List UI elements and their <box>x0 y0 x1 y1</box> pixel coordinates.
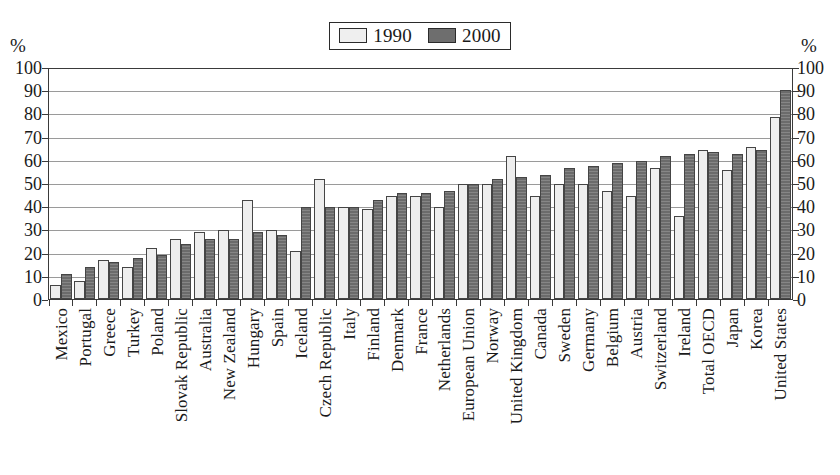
bar-1990 <box>98 260 109 299</box>
y-tick-mark-left <box>42 68 48 69</box>
legend-item-2000: 2000 <box>428 26 501 45</box>
bar-group <box>456 69 480 299</box>
y-tick-label-left: 50 <box>2 175 42 193</box>
bar-2000 <box>397 193 408 299</box>
bar-group <box>145 69 169 299</box>
bar-2000 <box>492 179 503 299</box>
bar-group <box>241 69 265 299</box>
y-tick-label-left: 20 <box>2 245 42 263</box>
x-label-cell: Turkey <box>121 306 145 474</box>
x-tick-label: Denmark <box>388 308 405 372</box>
bar-1990 <box>242 200 253 299</box>
bar-2000 <box>588 166 599 299</box>
bar-1990 <box>722 170 733 299</box>
y-tick-mark-left <box>42 184 48 185</box>
y-tick-mark-right <box>793 91 799 92</box>
x-tick-label: Finland <box>364 308 381 361</box>
x-label-cell: Total OECD <box>696 306 720 474</box>
x-label-cell: United Kingdom <box>504 306 528 474</box>
bar-2000 <box>732 154 743 299</box>
y-tick-mark-left <box>42 300 48 301</box>
bar-2000 <box>109 262 120 299</box>
bar-group <box>361 69 385 299</box>
bar-2000 <box>349 207 360 299</box>
y-tick-mark-right <box>793 277 799 278</box>
bar-group <box>433 69 457 299</box>
y-tick-label-left: 70 <box>2 129 42 147</box>
y-tick-label-right: 80 <box>797 105 840 123</box>
bar-2000 <box>133 258 144 299</box>
bar-group <box>576 69 600 299</box>
y-tick-label-left: 40 <box>2 198 42 216</box>
y-tick-label-right: 20 <box>797 245 840 263</box>
y-tick-mark-right <box>793 161 799 162</box>
bar-2000 <box>540 175 551 299</box>
x-tick-label: European Union <box>460 308 477 421</box>
bar-1990 <box>458 184 469 299</box>
y-tick-label-right: 0 <box>797 291 840 309</box>
x-label-cell: Netherlands <box>433 306 457 474</box>
x-tick-label: Greece <box>100 308 117 357</box>
x-tick-label: Sweden <box>556 308 573 362</box>
x-label-cell: Ireland <box>672 306 696 474</box>
bar-1990 <box>338 207 349 299</box>
bar-group <box>768 69 792 299</box>
bar-group <box>289 69 313 299</box>
y-tick-label-right: 30 <box>797 221 840 239</box>
x-label-cell: Finland <box>361 306 385 474</box>
y-tick-label-left: 80 <box>2 105 42 123</box>
y-tick-label-right: 40 <box>797 198 840 216</box>
x-label-cell: Hungary <box>241 306 265 474</box>
bar-2000 <box>205 239 216 299</box>
bar-group <box>169 69 193 299</box>
bar-group <box>121 69 145 299</box>
bar-1990 <box>578 184 589 299</box>
y-tick-label-right: 90 <box>797 82 840 100</box>
x-label-cell: Spain <box>265 306 289 474</box>
y-tick-mark-left <box>42 114 48 115</box>
x-tick-label: Turkey <box>124 308 141 357</box>
bar-1990 <box>770 117 781 299</box>
bar-group <box>504 69 528 299</box>
x-label-cell: European Union <box>456 306 480 474</box>
legend-swatch-1990 <box>339 28 367 43</box>
y-tick-label-left: 100 <box>2 59 42 77</box>
x-tick-label: United States <box>772 308 789 400</box>
y-axis-unit-left: % <box>10 36 26 55</box>
bar-group <box>217 69 241 299</box>
bar-1990 <box>602 191 613 299</box>
y-tick-label-left: 60 <box>2 152 42 170</box>
x-tick-label: Iceland <box>292 308 309 359</box>
bar-1990 <box>266 230 277 299</box>
x-tick-label: Belgium <box>604 308 621 367</box>
x-label-cell: New Zealand <box>217 306 241 474</box>
chart-legend: 1990 2000 <box>0 22 840 50</box>
bar-2000 <box>612 163 623 299</box>
bar-group <box>193 69 217 299</box>
x-label-cell: Austria <box>624 306 648 474</box>
bar-1990 <box>74 281 85 299</box>
bar-2000 <box>660 156 671 299</box>
x-label-cell: France <box>409 306 433 474</box>
y-tick-label-right: 60 <box>797 152 840 170</box>
bar-1990 <box>170 239 181 299</box>
bar-2000 <box>157 255 168 299</box>
y-tick-mark-right <box>793 138 799 139</box>
bar-2000 <box>325 207 336 299</box>
bar-2000 <box>421 193 432 299</box>
bar-group <box>600 69 624 299</box>
bar-1990 <box>50 285 61 299</box>
y-tick-label-left: 30 <box>2 221 42 239</box>
y-tick-mark-left <box>42 161 48 162</box>
bar-2000 <box>516 177 527 299</box>
bar-group <box>672 69 696 299</box>
bar-group <box>385 69 409 299</box>
x-label-cell: Belgium <box>600 306 624 474</box>
x-tick-label: Portugal <box>76 308 93 366</box>
y-tick-mark-left <box>42 254 48 255</box>
x-label-cell: Australia <box>193 306 217 474</box>
bar-1990 <box>434 207 445 299</box>
y-tick-mark-right <box>793 68 799 69</box>
bar-group <box>648 69 672 299</box>
x-label-cell: Poland <box>145 306 169 474</box>
